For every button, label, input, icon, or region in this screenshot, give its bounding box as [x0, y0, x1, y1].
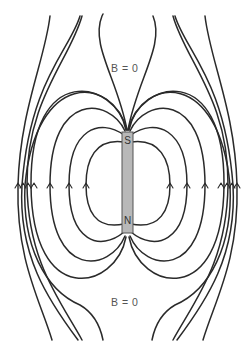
- top-null-point-label: B = 0: [111, 62, 138, 74]
- south-pole-label: S: [122, 135, 133, 146]
- bottom-null-point-label: B = 0: [111, 296, 138, 308]
- north-pole-label: N: [122, 215, 133, 226]
